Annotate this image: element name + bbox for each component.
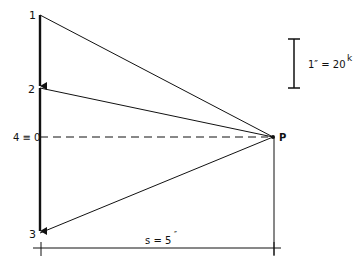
dimension-label-superscript: ″ <box>174 231 177 240</box>
scale-bar <box>288 39 300 88</box>
rays <box>40 15 273 233</box>
ray-1 <box>40 15 273 137</box>
point-label-3: 3 <box>29 228 36 241</box>
pole-label: P <box>279 132 286 143</box>
point-label-2: 2 <box>28 83 35 96</box>
scale-label-superscript: k <box>347 53 353 63</box>
ray-3 <box>40 137 273 233</box>
ray-2 <box>40 88 273 137</box>
point-label-4-o: 4 ≡ 0 <box>13 132 40 143</box>
scale-label: 1″ = 20 <box>308 59 346 70</box>
point-label-1: 1 <box>29 9 36 22</box>
force-polygon-diagram: 1 2 4 ≡ 0 3 P 1″ = 20 k s = 5 ″ <box>0 0 359 271</box>
dimension-label: s = 5 <box>145 235 171 246</box>
